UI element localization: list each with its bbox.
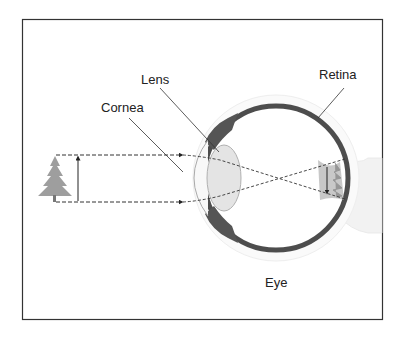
- eye-optics-diagram: [0, 0, 403, 341]
- eye-caption: Eye: [265, 276, 287, 289]
- lens-shape: [207, 145, 241, 211]
- lens-label: Lens: [141, 73, 169, 86]
- cornea-label: Cornea: [101, 101, 144, 114]
- retina-label: Retina: [319, 68, 357, 81]
- retina-shading: [318, 160, 344, 200]
